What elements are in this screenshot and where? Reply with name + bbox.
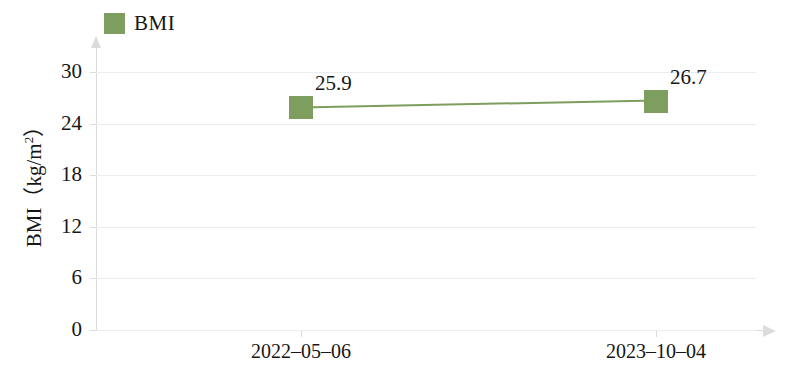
data-point-label: 26.7 xyxy=(670,67,707,88)
y-axis-arrow-icon xyxy=(91,36,101,48)
y-axis-tick-label: 30 xyxy=(42,61,82,82)
y-axis-title-exponent: 2 xyxy=(21,137,36,144)
x-axis-tick-label: 2023–10–04 xyxy=(556,341,756,361)
data-point-marker[interactable] xyxy=(289,96,313,119)
series-polyline xyxy=(301,101,656,108)
legend-label-bmi: BMI xyxy=(134,13,175,34)
data-point-marker[interactable] xyxy=(644,90,668,113)
x-axis-arrow-icon xyxy=(763,325,776,337)
legend-swatch-bmi xyxy=(104,13,125,34)
chart-legend: BMI xyxy=(104,9,175,37)
x-axis-tick-mark xyxy=(301,331,302,337)
y-axis-tick-label: 18 xyxy=(42,164,82,185)
bmi-line-chart: BMI BMI（kg/m2） 0612182430 25.926.7 2022–… xyxy=(0,0,787,365)
y-axis-tick-labels: 0612182430 xyxy=(40,0,82,365)
plot-area: 25.926.7 xyxy=(96,55,756,330)
data-point-label: 25.9 xyxy=(315,73,352,94)
x-axis-tick-mark xyxy=(656,331,657,337)
y-axis-tick-label: 12 xyxy=(42,216,82,237)
y-axis-tick-label: 6 xyxy=(42,267,82,288)
y-axis-tick-label: 0 xyxy=(42,319,82,340)
x-axis-tick-label: 2022–05–06 xyxy=(201,341,401,361)
gridline xyxy=(96,330,756,331)
y-axis-tick-label: 24 xyxy=(42,113,82,134)
